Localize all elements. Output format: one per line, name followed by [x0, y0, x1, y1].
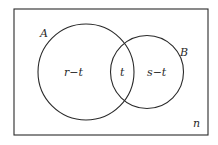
- region-a-only-label: r−t: [64, 66, 83, 79]
- set-a-label: A: [39, 27, 48, 40]
- set-b-label: B: [179, 46, 188, 59]
- region-b-only-label: s−t: [147, 66, 167, 79]
- intersection-label: t: [120, 66, 125, 79]
- universe-label: n: [193, 117, 200, 130]
- venn-diagram: A B r−t t s−t n: [0, 0, 218, 145]
